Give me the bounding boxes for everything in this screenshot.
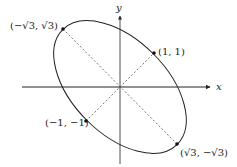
x-axis-label: x [216,81,222,92]
point-sqrt3-negsqrt3 [175,142,179,146]
label-sqrt3-negsqrt3: (√3, −√3) [180,147,228,158]
ellipse-diagram: x y (1, 1) (−1, −1) (−√3, √3) (√3, −√3) [0,0,237,167]
point-negsqrt3-sqrt3 [61,27,65,31]
label-neg1-neg1: (−1, −1) [45,117,89,128]
y-axis-label: y [115,2,122,13]
point-1-1 [152,51,156,55]
label-negsqrt3-sqrt3: (−√3, √3) [10,20,58,31]
label-1-1: (1, 1) [158,46,185,57]
